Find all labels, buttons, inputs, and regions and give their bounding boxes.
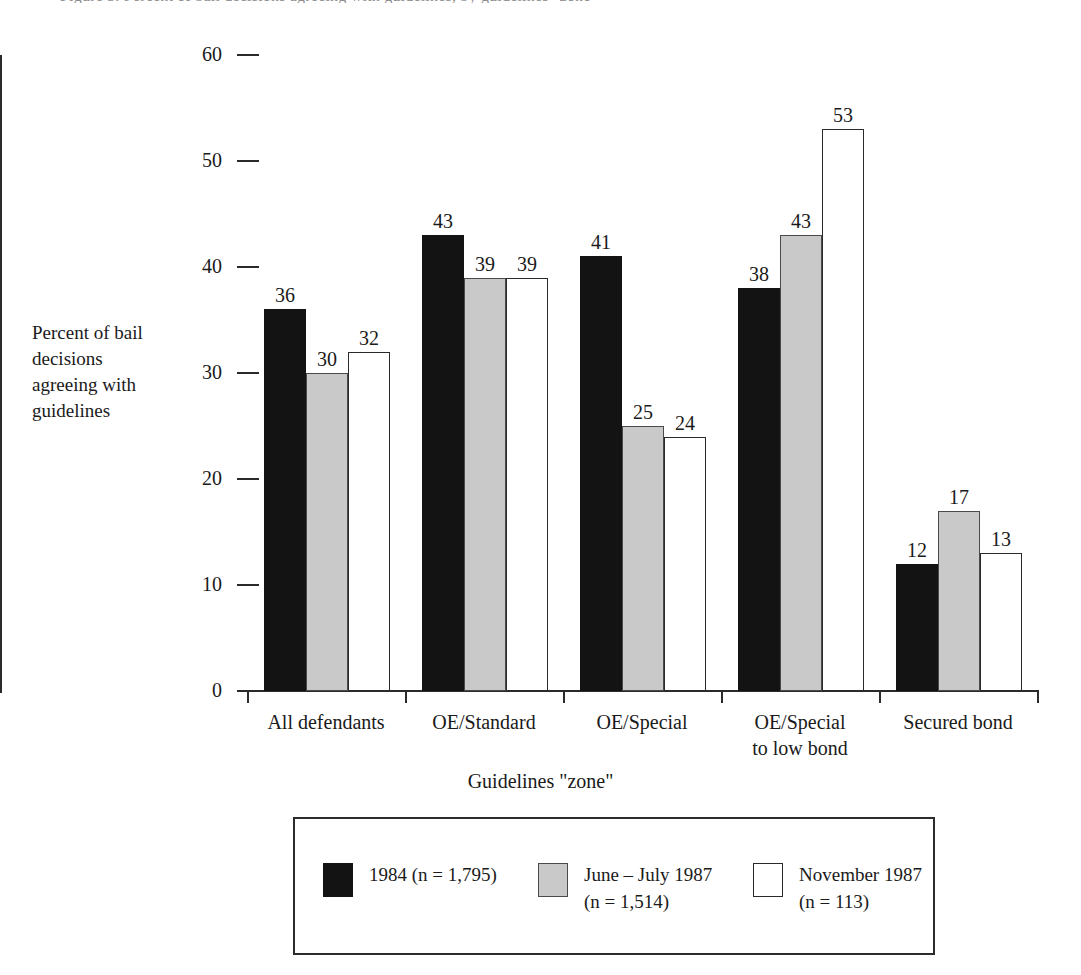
plot-area: 364341381230392543173239245313 bbox=[247, 55, 1037, 691]
x-axis-group-tick bbox=[563, 690, 565, 703]
bar: 39 bbox=[464, 278, 506, 691]
bar-value-label: 24 bbox=[675, 412, 695, 434]
bar: 36 bbox=[264, 309, 306, 691]
bar-value-label: 39 bbox=[517, 253, 537, 275]
x-axis-category-label: Secured bond bbox=[879, 709, 1037, 735]
x-axis-group-tick bbox=[721, 690, 723, 703]
bar: 24 bbox=[664, 437, 706, 691]
y-axis-tick-label: 40 bbox=[157, 254, 222, 278]
bar-value-label: 25 bbox=[633, 401, 653, 423]
bar-value-label: 39 bbox=[475, 253, 495, 275]
x-axis-category-label: All defendants bbox=[247, 709, 405, 735]
y-axis-tick-label: 50 bbox=[157, 148, 222, 172]
bar: 12 bbox=[896, 564, 938, 691]
bar: 53 bbox=[822, 129, 864, 691]
x-axis-group-tick bbox=[405, 690, 407, 703]
white-swatch bbox=[753, 863, 783, 897]
x-axis-group-tick bbox=[879, 690, 881, 703]
bar: 43 bbox=[422, 235, 464, 691]
legend-entry: 1984 (n = 1,795) bbox=[323, 861, 497, 897]
bar: 25 bbox=[622, 426, 664, 691]
y-axis-title-line: Percent of bail bbox=[32, 320, 222, 346]
bar-value-label: 41 bbox=[591, 231, 611, 253]
y-axis-tick-label: 10 bbox=[157, 572, 222, 596]
legend-entry: November 1987 (n = 113) bbox=[753, 861, 922, 915]
y-axis-tick-label: 0 bbox=[157, 678, 222, 702]
bar-value-label: 32 bbox=[359, 327, 379, 349]
bar: 39 bbox=[506, 278, 548, 691]
x-axis-category-label: OE/Special to low bond bbox=[721, 709, 879, 761]
y-axis-title-line: decisions bbox=[32, 346, 222, 372]
figure-caption-clipped: Figure 3. Percent of bail decisions agre… bbox=[60, 0, 960, 3]
legend-entry: June – July 1987 (n = 1,514) bbox=[538, 861, 712, 915]
bar: 13 bbox=[980, 553, 1022, 691]
y-axis-line bbox=[0, 55, 2, 693]
x-axis-title: Guidelines "zone" bbox=[0, 770, 1081, 793]
x-axis-group-tick bbox=[247, 690, 249, 703]
bar-value-label: 38 bbox=[749, 263, 769, 285]
bar-value-label: 53 bbox=[833, 104, 853, 126]
x-axis-category-label: OE/Special bbox=[563, 709, 721, 735]
bar-value-label: 43 bbox=[433, 210, 453, 232]
y-axis-title: Percent of baildecisionsagreeing withgui… bbox=[32, 320, 222, 424]
x-axis-category-label: OE/Standard bbox=[405, 709, 563, 735]
bar: 32 bbox=[348, 352, 390, 691]
bar-value-label: 36 bbox=[275, 284, 295, 306]
bar-value-label: 30 bbox=[317, 348, 337, 370]
bar-value-label: 12 bbox=[907, 539, 927, 561]
bar-value-label: 13 bbox=[991, 528, 1011, 550]
x-axis-group-tick bbox=[1037, 690, 1039, 703]
bar-value-label: 43 bbox=[791, 210, 811, 232]
legend-label: November 1987 (n = 113) bbox=[799, 861, 922, 915]
y-axis-tick-label: 60 bbox=[157, 42, 222, 66]
gray-swatch bbox=[538, 863, 568, 897]
bar: 30 bbox=[306, 373, 348, 691]
legend-label: June – July 1987 (n = 1,514) bbox=[584, 861, 712, 915]
y-axis-title-line: agreeing with bbox=[32, 372, 222, 398]
bar: 17 bbox=[938, 511, 980, 691]
y-axis-title-line: guidelines bbox=[32, 398, 222, 424]
legend-label: 1984 (n = 1,795) bbox=[369, 861, 497, 888]
y-axis-tick-label: 20 bbox=[157, 466, 222, 490]
bar: 38 bbox=[738, 288, 780, 691]
bar: 43 bbox=[780, 235, 822, 691]
legend: 1984 (n = 1,795)June – July 1987 (n = 1,… bbox=[293, 817, 935, 955]
bar-value-label: 17 bbox=[949, 486, 969, 508]
black-swatch bbox=[323, 863, 353, 897]
bar: 41 bbox=[580, 256, 622, 691]
